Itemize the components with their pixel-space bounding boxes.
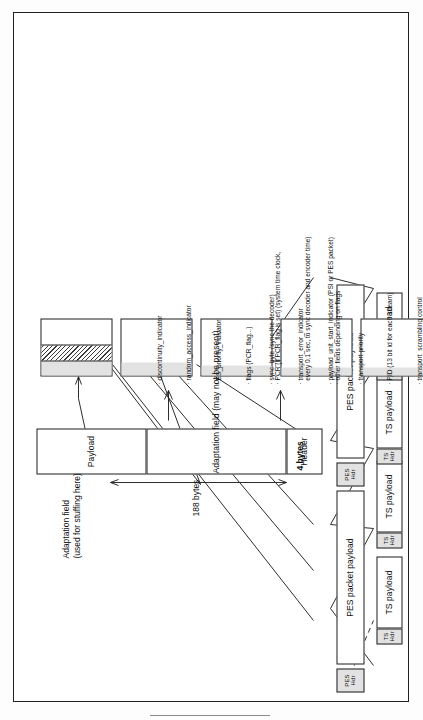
size-188-label: 188 bytes <box>190 479 201 516</box>
adaptation-field-item-1: · random_access_indicator <box>183 236 193 384</box>
adaptation-field-item-2: · ES_priority_indicator <box>213 236 223 384</box>
figure-page: PES Hdr PES packet payload PES Hdr PES p… <box>0 0 423 720</box>
ts-header-box-3: TS Hdr <box>376 448 402 464</box>
ts-payload-label-2: TS payload <box>384 461 394 531</box>
exploded-ts-packet-1 <box>40 318 112 376</box>
ts-header-label-3: TS Hdr <box>383 449 396 463</box>
ts-header-box-2: TS Hdr <box>376 532 402 548</box>
header-field-item-4: · PID (13 bit id for each stream) <box>384 237 394 384</box>
adaptation-fields-list: · discontinuity_indicator · random_acces… <box>134 236 361 384</box>
adaptation-field-item-4: · PCR (if PCR_flag is set) (system time … <box>272 236 282 384</box>
size-4-label: 4 bytes <box>294 441 305 470</box>
adaptation-field-item-6: · other fields depending on flags <box>332 236 342 384</box>
pes-header-label-1: PES Hdr <box>344 669 357 691</box>
diagram-canvas: PES Hdr PES packet payload PES Hdr PES p… <box>0 0 423 720</box>
ts-packet-payload-box: Payload <box>36 428 146 474</box>
ts-packet-adaptation-label: Adaptation field (may not be present) <box>211 429 221 473</box>
ts-header-label-2: TS Hdr <box>383 533 396 547</box>
adaptation-field-item-3: · flags (PCR_flag...) <box>243 236 253 384</box>
exploded-ts-adaptation-1 <box>41 344 111 361</box>
pes-payload-box-1: PES packet payload <box>336 490 364 664</box>
pes-header-box-1: PES Hdr <box>336 668 364 692</box>
header-field-item-5: · transport_scrambling control <box>414 237 423 384</box>
ts-header-box-1: TS Hdr <box>376 628 402 644</box>
ts-payload-box-2: TS payload <box>376 460 402 532</box>
ts-payload-label-3: TS payload <box>384 377 394 447</box>
ts-header-label-1: TS Hdr <box>383 629 396 643</box>
ts-packet-adaptation-box: Adaptation field (may not be present) <box>146 428 286 474</box>
pes-payload-label-1: PES packet payload <box>345 491 355 663</box>
adaptation-field-item-5: every 0.1 sec, to sync decoder and encod… <box>302 236 312 384</box>
caption-rule <box>150 715 270 716</box>
adaptation-stuffing-callout: Adaptation field (used for stuffing here… <box>60 473 83 558</box>
pes-header-box-2: PES Hdr <box>336 462 364 486</box>
ts-packet-payload-label: Payload <box>86 429 96 473</box>
exploded-ts-header-1 <box>41 361 111 375</box>
ts-payload-box-3: TS payload <box>376 376 402 448</box>
pes-header-label-2: PES Hdr <box>344 463 357 485</box>
ts-payload-box-1: TS payload <box>376 556 402 628</box>
ts-payload-label-1: TS payload <box>384 557 394 627</box>
adaptation-field-item-0: · discontinuity_indicator <box>154 236 164 384</box>
